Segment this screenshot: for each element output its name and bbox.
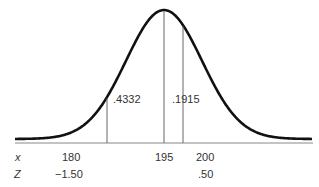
area-label-right: .1915 xyxy=(172,93,200,105)
area-label-left: .4332 xyxy=(113,93,141,105)
z-tick-180: −1.50 xyxy=(55,168,83,180)
normal-curve-diagram: .4332 .1915 x Z 180 195 200 −1.50 .50 xyxy=(0,0,319,187)
x-tick-195: 195 xyxy=(155,151,173,163)
x-tick-180: 180 xyxy=(62,151,80,163)
x-row-label: x xyxy=(14,151,21,163)
z-row-label: Z xyxy=(13,168,22,180)
x-tick-200: 200 xyxy=(196,151,214,163)
z-tick-200: .50 xyxy=(198,168,213,180)
